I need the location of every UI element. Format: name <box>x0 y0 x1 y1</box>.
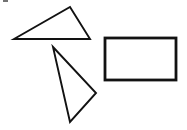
rectangle-right <box>105 38 176 80</box>
shapes-drawing <box>0 0 187 130</box>
triangle-top <box>14 7 90 39</box>
triangle-lower <box>53 47 96 122</box>
figure-canvas <box>0 0 187 130</box>
